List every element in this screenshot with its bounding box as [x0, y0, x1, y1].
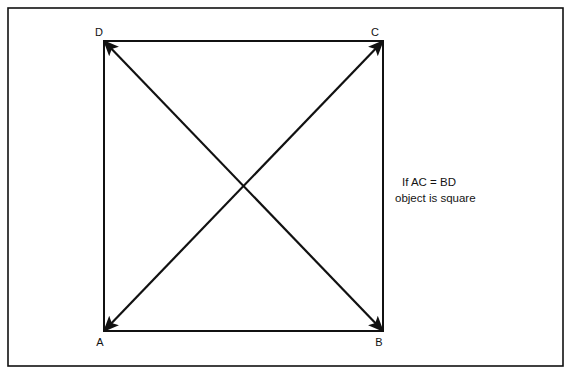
vertex-label-a: A [96, 336, 104, 348]
vertex-label-c: C [371, 26, 379, 38]
square-diagonals-figure: D C A B If AC = BD object is square [0, 0, 572, 377]
outer-frame-border [8, 8, 563, 366]
condition-note-line-1: If AC = BD [402, 176, 456, 188]
diagram-canvas: D C A B If AC = BD object is square [0, 0, 572, 377]
condition-note-line-2: object is square [395, 192, 476, 204]
vertex-label-d: D [95, 26, 103, 38]
vertex-label-b: B [375, 336, 382, 348]
